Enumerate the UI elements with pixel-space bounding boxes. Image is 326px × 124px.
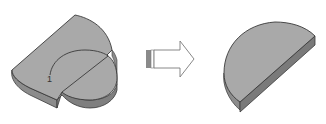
arrow-icon — [146, 41, 194, 77]
diagram-canvas: 1 — [0, 0, 326, 124]
part-label: 1 — [47, 74, 52, 84]
result-part — [224, 22, 315, 112]
diagram-svg: 1 — [0, 0, 326, 124]
source-part: 1 — [12, 15, 117, 108]
